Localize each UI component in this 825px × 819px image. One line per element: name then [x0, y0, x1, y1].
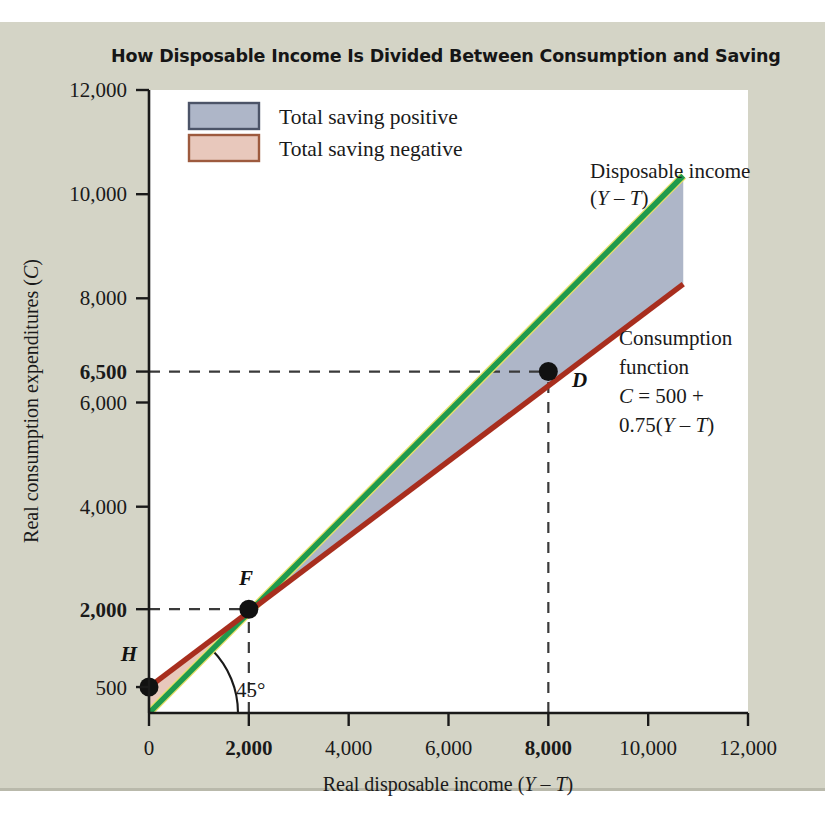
y-axis-ticks [136, 90, 149, 687]
y-tick-label-10000: 10,000 [69, 182, 127, 206]
legend-label-total-saving-negative: Total saving negative [279, 137, 463, 161]
disposable-income-paren-open: ( [590, 186, 597, 210]
y-axis-title-c: C [20, 265, 42, 279]
x-tick-label-4000: 4,000 [325, 736, 372, 760]
point-label-f: F [238, 566, 253, 590]
point-label-d: D [571, 368, 587, 392]
disposable-income-line2: (Y – T) [590, 186, 648, 210]
consumption-function-line2: function [619, 355, 689, 379]
consumption-function-eq: = 500 + [633, 384, 704, 408]
x-tick-label-6000: 6,000 [425, 736, 472, 760]
x-tick-label-2000: 2,000 [225, 736, 272, 760]
y-tick-label-4000: 4,000 [80, 495, 127, 519]
x-axis-title-post: ) [567, 773, 574, 796]
figure-container: How Disposable Income Is Divided Between… [0, 0, 825, 819]
x-axis-title-mid: – [535, 773, 555, 795]
consumption-function-line4: 0.75(Y – T) [619, 413, 714, 437]
x-tick-label-10000: 10,000 [619, 736, 677, 760]
angle-label: 45° [236, 678, 265, 702]
consumption-function-coef: 0.75( [619, 413, 663, 437]
consumption-function-line1: Consumption [619, 326, 733, 350]
consumption-function-c: C [619, 384, 634, 408]
chart-title: How Disposable Income Is Divided Between… [111, 46, 781, 66]
x-axis-title: Real disposable income (Y – T) [323, 773, 574, 796]
y-tick-label-500: 500 [96, 676, 128, 700]
point-label-h: H [120, 642, 138, 666]
data-point-f[interactable] [239, 600, 258, 619]
consumption-function-paren-close: ) [707, 413, 714, 437]
x-tick-label-12000: 12,000 [719, 736, 777, 760]
x-tick-label-0: 0 [144, 736, 155, 760]
chart-svg: How Disposable Income Is Divided Between… [0, 0, 825, 819]
consumption-function-minus: – [674, 413, 695, 437]
y-tick-label-2000: 2,000 [80, 598, 127, 622]
disposable-income-paren-close: ) [641, 186, 648, 210]
x-axis-title-pre: Real disposable income ( [323, 773, 525, 796]
x-axis-ticks [149, 713, 748, 726]
y-axis-title-post: ) [20, 259, 43, 266]
y-tick-label-6000: 6,000 [80, 391, 127, 415]
data-point-d[interactable] [539, 362, 558, 381]
x-tick-label-8000: 8,000 [525, 736, 572, 760]
legend-swatch-total-saving-positive [189, 103, 259, 129]
disposable-income-minus: – [609, 186, 630, 210]
legend-label-total-saving-positive: Total saving positive [279, 105, 458, 129]
y-tick-label-12000: 12,000 [69, 78, 127, 102]
legend-swatch-total-saving-negative [189, 135, 259, 161]
y-tick-label-6500: 6,500 [80, 360, 127, 384]
y-axis-title-pre: Real consumption expenditures ( [20, 279, 43, 543]
y-axis-title: Real consumption expenditures (C) [20, 259, 43, 543]
y-tick-label-8000: 8,000 [80, 286, 127, 310]
consumption-function-line3: C = 500 + [619, 384, 704, 408]
disposable-income-line1: Disposable income [590, 159, 750, 183]
